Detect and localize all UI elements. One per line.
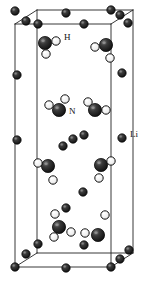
lithium-atom (118, 69, 126, 77)
sphere-highlight (82, 243, 84, 245)
sphere-highlight (61, 144, 63, 146)
sphere-highlight (93, 45, 95, 47)
lithium-atom (11, 7, 19, 15)
nitrogen-atom-sphere (52, 103, 65, 116)
lithium-atom (118, 134, 126, 142)
nitrogen-atom (41, 159, 54, 172)
lithium-atom (62, 204, 70, 212)
hydrogen-atom (102, 106, 110, 114)
nitrogen-atom-sphere (99, 38, 112, 51)
lithium-atom-sphere (124, 19, 132, 27)
sphere-highlight (127, 248, 129, 250)
hydrogen-atom (51, 210, 59, 218)
sphere-highlight (97, 176, 99, 178)
nitrogen-atom (99, 38, 112, 51)
sphere-highlight (41, 39, 44, 42)
lithium-atom (59, 142, 67, 150)
nitrogen-atom (52, 103, 65, 116)
hydrogen-atom-sphere (102, 106, 110, 114)
hydrogen-atom-sphere (84, 98, 92, 106)
sphere-highlight (15, 138, 17, 140)
lithium-atom-sphere (116, 11, 124, 19)
lithium-atom (107, 6, 115, 14)
lithium-atom-sphere (62, 264, 70, 272)
lithium-atom-sphere (79, 188, 87, 196)
hydrogen-atom-sphere (61, 95, 69, 103)
hydrogen-atom-sphere (42, 50, 50, 58)
hydrogen-atom (50, 233, 58, 241)
sphere-highlight (13, 9, 15, 11)
sphere-highlight (102, 41, 105, 44)
crystal-structure-figure: H N Li (0, 0, 148, 282)
lithium-atom-sphere (116, 255, 124, 263)
sphere-highlight (71, 137, 73, 139)
lithium-atom-sphere (118, 134, 126, 142)
lithium-atom (34, 20, 42, 28)
hydrogen-atom (34, 159, 42, 167)
sphere-highlight (120, 136, 122, 138)
hydrogen-atom-sphere (50, 233, 58, 241)
hydrogen-atom-sphere (51, 210, 59, 218)
sphere-highlight (53, 212, 55, 214)
sphere-highlight (118, 257, 120, 259)
nitrogen-atom (91, 228, 104, 241)
sphere-highlight (44, 52, 46, 54)
lithium-atom (13, 71, 21, 79)
lithium-atom (69, 135, 77, 143)
lithium-atom (11, 263, 19, 271)
hydrogen-atom-sphere (106, 54, 114, 62)
lithium-atom (22, 17, 30, 25)
lithium-atom-sphere (107, 6, 115, 14)
sphere-highlight (64, 266, 66, 268)
sphere-highlight (103, 213, 105, 215)
lithium-atom (79, 188, 87, 196)
sphere-highlight (126, 21, 128, 23)
lithium-atom-sphere (13, 136, 21, 144)
sphere-highlight (24, 19, 26, 21)
sphere-highlight (94, 231, 97, 234)
sphere-highlight (64, 11, 66, 13)
hydrogen-atom-sphere (107, 157, 115, 165)
sphere-highlight (109, 8, 111, 10)
lithium-atom (80, 131, 88, 139)
hydrogen-atom (67, 228, 75, 236)
hydrogen-atom (91, 43, 99, 51)
nitrogen-atom (94, 158, 107, 171)
sphere-highlight (109, 265, 111, 267)
label-li: Li (130, 130, 138, 139)
hydrogen-atom-sphere (101, 211, 109, 219)
lithium-atom (116, 255, 124, 263)
lithium-atom (34, 240, 42, 248)
lithium-atom-sphere (118, 69, 126, 77)
hydrogen-atom (49, 176, 57, 184)
sphere-highlight (55, 106, 58, 109)
hydrogen-atom (84, 98, 92, 106)
lithium-atom (107, 263, 115, 271)
nitrogen-atom-sphere (41, 159, 54, 172)
sphere-highlight (97, 161, 100, 164)
hydrogen-atom (81, 229, 89, 237)
lithium-atom-sphere (22, 17, 30, 25)
sphere-highlight (81, 190, 83, 192)
lithium-atom (125, 246, 133, 254)
sphere-highlight (24, 252, 26, 254)
lithium-atom (80, 20, 88, 28)
sphere-highlight (36, 242, 38, 244)
hydrogen-atom-sphere (67, 228, 75, 236)
lithium-atom (124, 19, 132, 27)
sphere-highlight (120, 71, 122, 73)
sphere-highlight (51, 178, 53, 180)
lithium-atom-sphere (34, 20, 42, 28)
lithium-atom (22, 250, 30, 258)
hydrogen-atom (101, 211, 109, 219)
lithium-atom-sphere (62, 9, 70, 17)
hydrogen-atom-sphere (52, 37, 60, 45)
hydrogen-atom (45, 101, 53, 109)
sphere-highlight (86, 100, 88, 102)
label-h: H (64, 33, 71, 42)
lithium-atom-sphere (80, 20, 88, 28)
sphere-highlight (91, 106, 94, 109)
nitrogen-atom-sphere (52, 220, 65, 233)
lithium-atom-sphere (107, 263, 115, 271)
sphere-highlight (55, 223, 58, 226)
